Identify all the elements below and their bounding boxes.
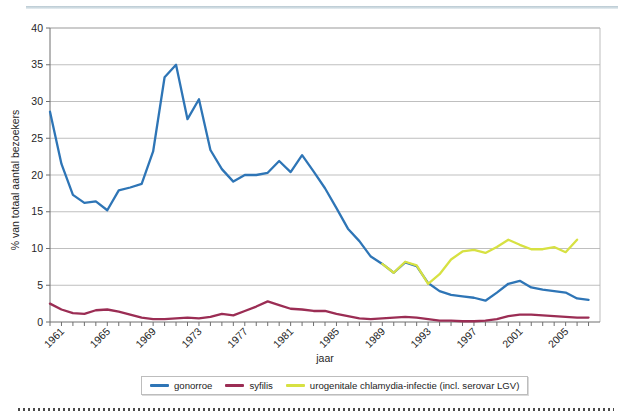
y-axis-ticks: 0510152025303540: [31, 22, 50, 328]
y-tick-label: 10: [31, 242, 43, 254]
x-tick-label: 1965: [87, 325, 112, 350]
chart-legend: gonorroe syfilis urogenitale chlamydia-i…: [141, 376, 528, 395]
x-tick-label: 1969: [133, 325, 158, 350]
legend-label-chlamydia: urogenitale chlamydia-infectie (incl. se…: [310, 381, 520, 391]
series-line-gonorroe: [50, 65, 589, 301]
x-tick-label: 1977: [225, 325, 250, 350]
line-chart-plot: 0510152025303540 19611965196919731977198…: [0, 0, 626, 417]
y-tick-label: 20: [31, 169, 43, 181]
legend-item-chlamydia: urogenitale chlamydia-infectie (incl. se…: [286, 381, 520, 391]
legend-swatch-gonorroe: [150, 384, 169, 387]
x-tick-label: 1973: [179, 325, 204, 350]
legend-item-gonorroe: gonorroe: [150, 381, 212, 391]
x-tick-label: 1981: [271, 325, 296, 350]
legend-swatch-syfilis: [225, 384, 244, 387]
x-tick-label: 1993: [408, 325, 433, 350]
y-tick-label: 0: [37, 316, 43, 328]
x-tick-label: 2005: [546, 325, 571, 350]
series-line-urogenitale: [382, 240, 577, 284]
data-series-group: [50, 65, 589, 322]
x-tick-label: 2001: [500, 325, 525, 350]
figure-container: 0510152025303540 19611965196919731977198…: [0, 0, 626, 417]
y-tick-label: 5: [37, 279, 43, 291]
bottom-dotted-rule: [18, 408, 614, 411]
legend-label-gonorroe: gonorroe: [174, 381, 212, 391]
x-tick-label: 1989: [362, 325, 387, 350]
legend-swatch-chlamydia: [286, 384, 305, 387]
x-axis-title: jaar: [315, 352, 334, 364]
y-tick-label: 35: [31, 58, 43, 70]
y-tick-label: 25: [31, 132, 43, 144]
legend-item-syfilis: syfilis: [225, 381, 272, 391]
y-tick-label: 15: [31, 205, 43, 217]
x-tick-label: 1997: [454, 325, 479, 350]
legend-label-syfilis: syfilis: [249, 381, 272, 391]
y-axis-title: % van totaal aantal bezoekers: [9, 110, 21, 251]
x-tick-label: 1961: [41, 325, 66, 350]
gridlines-group: [50, 28, 600, 285]
y-tick-label: 40: [31, 22, 43, 34]
x-axis-ticks: 1961196519691973197719811985198919931997…: [41, 322, 588, 350]
x-tick-label: 1985: [316, 325, 341, 350]
series-line-syfilis: [50, 301, 589, 321]
y-tick-label: 30: [31, 95, 43, 107]
